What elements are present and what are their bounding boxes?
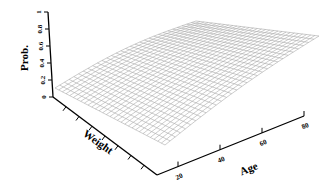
z-tick-label: 0.4	[38, 58, 46, 67]
y-tick	[141, 165, 144, 169]
z-tick-label: 1	[35, 10, 43, 14]
y-tick	[63, 107, 66, 111]
x-tick-label: 80	[301, 121, 311, 131]
z-axis-title: Prob.	[18, 45, 30, 71]
y-axis: Weight	[53, 97, 157, 175]
z-tick-label: 0.8	[36, 24, 44, 33]
z-tick-label: 0	[40, 95, 48, 99]
z-tick-label: 0.6	[37, 41, 45, 50]
x-axis-title: Age	[238, 159, 260, 177]
surface-chart: 00.20.40.60.81 Prob. Weight 20406080 Age	[0, 0, 336, 184]
x-tick-label: 60	[259, 138, 269, 148]
x-axis: 20406080 Age	[157, 111, 310, 182]
x-tick-label: 40	[217, 155, 227, 165]
y-tick	[128, 156, 131, 160]
x-tick-label: 20	[175, 172, 185, 182]
z-tick-label: 0.2	[39, 75, 47, 84]
z-axis: 00.20.40.60.81 Prob.	[18, 10, 53, 99]
y-tick	[76, 117, 79, 121]
